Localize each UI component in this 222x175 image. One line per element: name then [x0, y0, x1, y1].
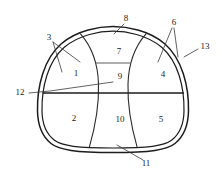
zone-label-5: 5: [159, 114, 164, 124]
callout-label-12: 12: [16, 87, 25, 97]
callout-label-3: 3: [47, 32, 52, 42]
excavation-boundary-contour: [42, 31, 184, 148]
callout-6-leader-b: [174, 28, 178, 57]
callout-label-8: 8: [124, 13, 129, 23]
zone-label-2: 2: [72, 113, 77, 123]
zone-label-10: 10: [116, 114, 126, 124]
tunnel-diagram-canvas: 1 2 4 5 7 9 10 3 6 8 11 12 13: [0, 0, 222, 175]
callout-label-6: 6: [172, 17, 177, 27]
callout-13-leader: [184, 49, 198, 57]
zone-label-1: 1: [74, 68, 79, 78]
callout-label-13: 13: [201, 41, 211, 51]
callout-8-leader: [114, 24, 124, 34]
zone-label-9: 9: [118, 71, 123, 81]
callout-12-leader: [29, 82, 113, 93]
zone-label-4: 4: [161, 69, 166, 79]
left-curved-divider: [81, 34, 99, 147]
tunnel-cross-section-figure: 1 2 4 5 7 9 10 3 6 8 11 12 13: [0, 0, 222, 175]
callout-label-11: 11: [142, 158, 151, 168]
right-curved-divider: [128, 34, 146, 147]
zone-label-7: 7: [117, 46, 122, 56]
